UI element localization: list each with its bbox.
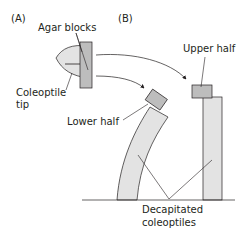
agar-blocks-label: Agar blocks [38, 22, 96, 33]
coleoptile-tip-label-line2: tip [16, 99, 29, 110]
coleoptile-tip-leader [66, 73, 72, 90]
agar-blocks [80, 42, 92, 88]
straight-decapitated-coleoptile [203, 97, 222, 200]
panel-a-label: (A) [11, 13, 26, 24]
upper-half-label: Upper half [183, 43, 236, 54]
decapitated-label-line2: coleoptiles [142, 217, 196, 228]
coleoptile-tip-label-line1: Coleoptile [16, 87, 66, 98]
panel-b-label: (B) [118, 13, 133, 24]
curved-decapitated-coleoptile [117, 107, 168, 200]
coleoptile-experiment-diagram: (A) (B) Agar blocks Coleoptile tip Lower… [0, 0, 244, 232]
arrow-to-lower-half [96, 76, 144, 88]
arrow-to-upper-half [96, 54, 186, 79]
upper-half-leader [201, 57, 205, 87]
decapitated-label-line1: Decapitated [142, 204, 203, 215]
decapitated-leader-left [138, 155, 169, 199]
lower-half-block [145, 89, 167, 110]
upper-half-block [192, 85, 212, 98]
lower-half-label: Lower half [67, 116, 119, 127]
